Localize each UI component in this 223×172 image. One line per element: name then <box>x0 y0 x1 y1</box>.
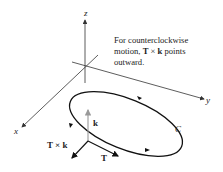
annotation-note: For counterclockwise motion, T × k point… <box>114 35 223 68</box>
curve-label: C <box>175 125 181 134</box>
note-line-1: For counterclockwise <box>114 35 223 46</box>
txk-label: T × k <box>47 141 67 150</box>
txk-vector <box>72 141 88 158</box>
curve-c <box>61 78 191 169</box>
y-axis-label: y <box>206 96 210 105</box>
z-axis-label: z <box>84 9 88 18</box>
curve-arrow-top <box>137 96 142 100</box>
diagram-canvas <box>0 0 223 172</box>
curve-arrow-left <box>69 123 73 128</box>
k-label: k <box>93 119 98 128</box>
x-axis <box>22 55 98 127</box>
note-line-3: outward. <box>114 57 223 68</box>
t-label: T <box>101 154 107 163</box>
curve-arrow-bottom <box>145 148 150 152</box>
x-axis-label: x <box>14 127 18 136</box>
note-line-2: motion, T × k points <box>114 46 223 57</box>
